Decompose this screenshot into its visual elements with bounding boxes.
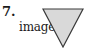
problem-number: 7. [2, 5, 16, 18]
inverted-triangle-figure [42, 8, 84, 48]
triangle-shape [43, 9, 83, 47]
